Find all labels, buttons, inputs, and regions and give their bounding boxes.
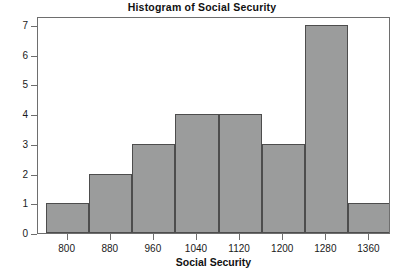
x-tick-mark (110, 234, 111, 240)
x-tick-mark (196, 234, 197, 240)
y-tick-label: 6 (8, 51, 28, 61)
y-tick-mark (31, 234, 37, 235)
histogram-bar (132, 144, 175, 233)
x-tick-label: 880 (90, 243, 130, 254)
x-tick-mark (67, 234, 68, 240)
y-tick-label: 1 (8, 199, 28, 209)
histogram-bar (305, 25, 348, 233)
histogram-bar (219, 114, 262, 233)
histogram-figure: Histogram of Social Security Frequency 0… (0, 0, 404, 273)
x-tick-label: 1040 (176, 243, 216, 254)
y-tick-label: 4 (8, 110, 28, 120)
x-tick-label: 1360 (348, 243, 388, 254)
x-tick-mark (239, 234, 240, 240)
chart-title: Histogram of Social Security (0, 1, 404, 13)
x-tick-label: 1200 (262, 243, 302, 254)
histogram-bar (46, 203, 89, 233)
y-tick-label: 2 (8, 170, 28, 180)
x-tick-mark (282, 234, 283, 240)
histogram-bar (348, 203, 390, 233)
x-tick-label: 960 (133, 243, 173, 254)
histogram-bar (175, 114, 218, 233)
plot-area (37, 17, 390, 234)
x-tick-label: 800 (47, 243, 87, 254)
x-axis-label: Social Security (37, 256, 390, 268)
bars-layer (38, 18, 389, 233)
x-tick-mark (325, 234, 326, 240)
x-tick-label: 1280 (305, 243, 345, 254)
x-tick-label: 1120 (219, 243, 259, 254)
y-tick-label: 5 (8, 80, 28, 90)
x-tick-mark (153, 234, 154, 240)
histogram-bar (89, 174, 132, 233)
histogram-bar (262, 144, 305, 233)
y-tick-label: 3 (8, 140, 28, 150)
y-tick-label: 0 (8, 229, 28, 239)
y-tick-label: 7 (8, 21, 28, 31)
x-tick-mark (368, 234, 369, 240)
